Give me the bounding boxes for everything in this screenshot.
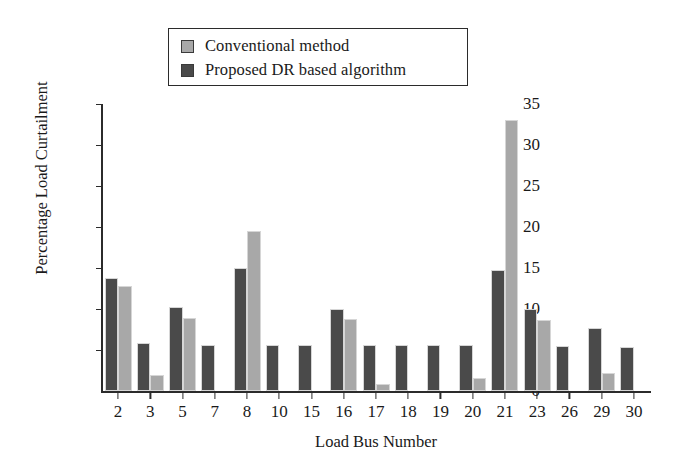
x-tick-mark	[504, 392, 505, 399]
x-tick-mark	[472, 392, 473, 399]
y-tick-mark	[96, 186, 102, 187]
bar-chart-figure: Conventional method Proposed DR based al…	[0, 0, 673, 469]
x-tick-mark	[375, 392, 376, 399]
bar-proposed-dr-based-algorithm-bus-21	[491, 270, 505, 391]
x-tick-mark	[537, 392, 538, 399]
legend-item-proposed: Proposed DR based algorithm	[181, 58, 457, 82]
x-tick-mark	[408, 392, 409, 399]
y-tick-mark	[96, 227, 102, 228]
bar-conventional-method-bus-16	[344, 319, 358, 391]
x-tick-mark	[633, 392, 634, 399]
bar-proposed-dr-based-algorithm-bus-17	[363, 345, 377, 391]
bar-conventional-method-bus-20	[473, 378, 487, 391]
x-tick-mark	[246, 392, 247, 399]
bar-conventional-method-bus-21	[505, 120, 519, 391]
bar-proposed-dr-based-algorithm-bus-7	[201, 345, 215, 391]
bar-proposed-dr-based-algorithm-bus-16	[330, 309, 344, 391]
bar-proposed-dr-based-algorithm-bus-18	[395, 345, 409, 391]
legend-label-proposed: Proposed DR based algorithm	[205, 62, 406, 79]
y-tick-mark	[96, 309, 102, 310]
plot-area: 05101520253035 2357810151617181920212326…	[102, 104, 650, 391]
bar-conventional-method-bus-23	[537, 320, 551, 391]
bar-proposed-dr-based-algorithm-bus-26	[556, 346, 570, 391]
legend-swatch-proposed	[181, 64, 194, 77]
x-tick-mark	[118, 392, 119, 399]
x-tick-mark	[601, 392, 602, 399]
bar-proposed-dr-based-algorithm-bus-23	[524, 309, 538, 391]
y-tick-mark	[96, 145, 102, 146]
y-tick-mark	[96, 350, 102, 351]
bar-conventional-method-bus-8	[247, 231, 261, 391]
legend-label-conventional: Conventional method	[205, 38, 349, 55]
x-tick-mark	[214, 392, 215, 399]
x-tick-mark	[569, 392, 570, 399]
x-tick-mark	[343, 392, 344, 399]
bar-proposed-dr-based-algorithm-bus-15	[298, 345, 312, 391]
bar-conventional-method-bus-3	[150, 375, 164, 391]
bar-proposed-dr-based-algorithm-bus-10	[266, 345, 280, 391]
y-tick-mark	[96, 268, 102, 269]
x-tick-mark	[311, 392, 312, 399]
bar-proposed-dr-based-algorithm-bus-3	[137, 343, 151, 391]
y-axis-title: Percentage Load Curtailment	[32, 53, 52, 303]
legend-swatch-conventional	[181, 40, 194, 53]
x-tick-mark	[279, 392, 280, 399]
bar-proposed-dr-based-algorithm-bus-19	[427, 345, 441, 391]
bar-proposed-dr-based-algorithm-bus-30	[620, 347, 634, 391]
x-tick-mark	[440, 392, 441, 399]
bar-conventional-method-bus-29	[602, 373, 616, 391]
bar-proposed-dr-based-algorithm-bus-8	[234, 268, 248, 391]
bar-proposed-dr-based-algorithm-bus-5	[169, 307, 183, 391]
y-tick-mark	[96, 104, 102, 105]
x-tick-mark	[182, 392, 183, 399]
bar-proposed-dr-based-algorithm-bus-2	[105, 278, 119, 391]
bar-conventional-method-bus-2	[118, 286, 132, 391]
x-tick-mark	[150, 392, 151, 399]
y-tick-label: 35	[500, 94, 540, 114]
bar-conventional-method-bus-17	[376, 384, 390, 391]
x-axis-title: Load Bus Number	[102, 432, 650, 452]
bar-proposed-dr-based-algorithm-bus-29	[588, 328, 602, 391]
bar-proposed-dr-based-algorithm-bus-20	[459, 345, 473, 391]
legend-item-conventional: Conventional method	[181, 34, 457, 58]
y-axis-line	[101, 104, 103, 392]
x-tick-label: 30	[614, 402, 654, 422]
chart-legend: Conventional method Proposed DR based al…	[168, 28, 468, 86]
bar-conventional-method-bus-5	[183, 318, 197, 391]
